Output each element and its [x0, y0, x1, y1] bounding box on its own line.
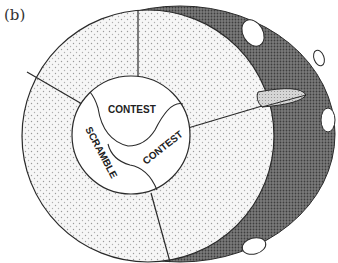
panel-label: (b) — [4, 6, 25, 24]
diagram-territory-rings: (b) — [0, 0, 338, 263]
territory-diagram: CONTEST CONTEST SCRAMBLE — [0, 0, 338, 263]
label-contest-top: CONTEST — [108, 104, 156, 115]
